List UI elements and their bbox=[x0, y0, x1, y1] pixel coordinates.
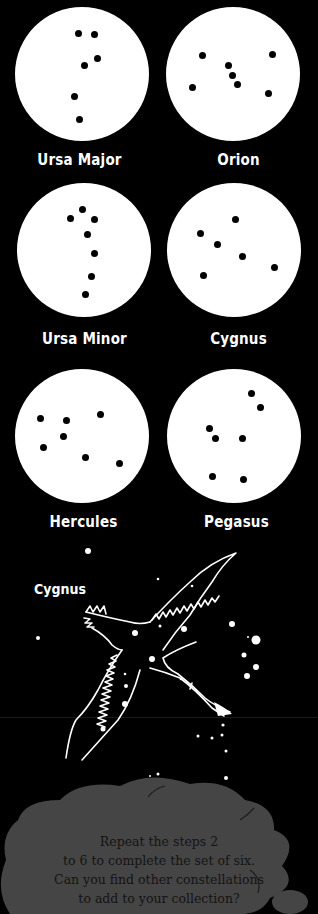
star-dot bbox=[248, 390, 255, 397]
star-dot bbox=[234, 81, 241, 88]
star-dot bbox=[189, 84, 196, 91]
label-ursa-major: Ursa Major bbox=[8, 151, 151, 169]
star-dot bbox=[232, 216, 239, 223]
star-dot bbox=[60, 433, 67, 440]
star-dot bbox=[76, 116, 83, 123]
cloud-line-4: to add to your collection? bbox=[10, 889, 308, 908]
star-dot bbox=[94, 55, 101, 62]
star-dot bbox=[37, 415, 44, 422]
star-dot bbox=[200, 272, 207, 279]
star-dot bbox=[82, 454, 89, 461]
star-dot bbox=[197, 230, 204, 237]
star-dot bbox=[206, 425, 213, 432]
star-dot bbox=[269, 51, 276, 58]
cygnus-disc bbox=[167, 183, 301, 317]
star-dot bbox=[91, 31, 98, 38]
star-dot bbox=[88, 273, 95, 280]
label-orion: Orion bbox=[167, 151, 310, 169]
star-dot bbox=[209, 473, 216, 480]
label-cygnus: Cygnus bbox=[167, 330, 310, 348]
star-dot bbox=[81, 62, 88, 69]
label-hercules: Hercules bbox=[12, 513, 155, 531]
star-dot bbox=[91, 216, 98, 223]
star-dot bbox=[67, 215, 74, 222]
star-dot bbox=[240, 476, 247, 483]
star-dot bbox=[199, 52, 206, 59]
hercules-disc bbox=[15, 369, 149, 503]
star-dot bbox=[97, 411, 104, 418]
star-dot bbox=[214, 241, 221, 248]
star-dot bbox=[239, 253, 246, 260]
star-dot bbox=[75, 30, 82, 37]
star-dot bbox=[84, 231, 91, 238]
cloud-line-3: Can you find other constellations bbox=[10, 870, 308, 889]
star-dot bbox=[116, 460, 123, 467]
pegasus-disc bbox=[167, 369, 301, 503]
cloud-line-2: to 6 to complete the set of six. bbox=[10, 851, 308, 870]
star-dot bbox=[225, 62, 232, 69]
star-dot bbox=[257, 404, 264, 411]
label-pegasus: Pegasus bbox=[165, 513, 308, 531]
swan-illustration bbox=[0, 540, 318, 780]
star-dot bbox=[271, 264, 278, 271]
star-dot bbox=[71, 93, 78, 100]
star-dot bbox=[63, 417, 70, 424]
star-dot bbox=[212, 435, 219, 442]
star-dot bbox=[229, 72, 236, 79]
star-dot bbox=[40, 444, 47, 451]
star-dot bbox=[79, 206, 86, 213]
star-dot bbox=[91, 250, 98, 257]
star-dot bbox=[239, 435, 246, 442]
cloud-message: Repeat the steps 2 to 6 to complete the … bbox=[10, 832, 308, 908]
star-dot bbox=[82, 291, 89, 298]
star-dot bbox=[265, 90, 272, 97]
label-ursa-minor: Ursa Minor bbox=[13, 330, 156, 348]
cloud-line-1: Repeat the steps 2 bbox=[10, 832, 308, 851]
